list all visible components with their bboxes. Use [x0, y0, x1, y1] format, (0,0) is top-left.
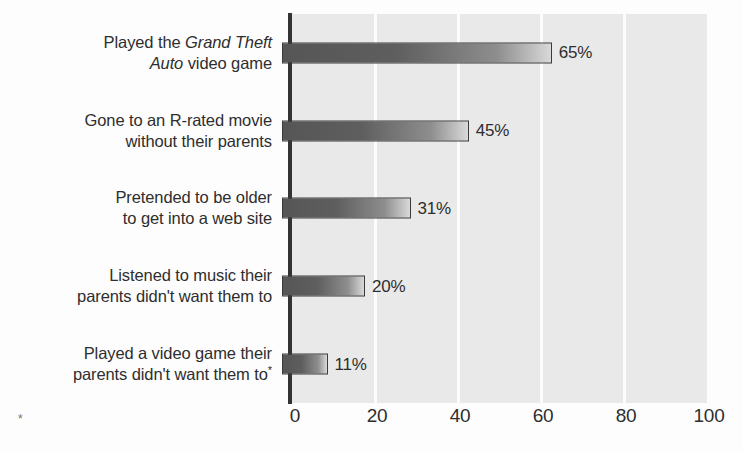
x-tick-0: 0: [290, 405, 300, 427]
chart-rows: Played the Grand Theft Auto video game 6…: [0, 14, 743, 403]
category-label-5-line1: Played a video game their: [84, 344, 272, 362]
category-label-1-line2-emphasis: Auto: [150, 54, 184, 72]
x-tick-20: 20: [367, 405, 388, 427]
bar-group-3: 31%: [282, 198, 451, 219]
bar-5: [282, 354, 328, 375]
category-label-4-line1: Listened to music their: [109, 266, 272, 284]
bar-3: [282, 198, 411, 219]
x-tick-60: 60: [533, 405, 554, 427]
bar-zone-1: 65%: [282, 14, 743, 92]
bar-zone-2: 45%: [282, 92, 743, 170]
bar-zone-3: 31%: [282, 170, 743, 248]
category-label-2-line2: without their parents: [126, 132, 272, 150]
category-label-3-line1: Pretended to be older: [115, 188, 272, 206]
x-tick-100: 100: [694, 405, 725, 427]
category-label-1: Played the Grand Theft Auto video game: [0, 32, 282, 74]
x-tick-80: 80: [616, 405, 637, 427]
category-label-1-line2-post: video game: [183, 54, 272, 72]
category-label-5: Played a video game their parents didn't…: [0, 343, 282, 385]
bar-chart: Played the Grand Theft Auto video game 6…: [0, 0, 743, 451]
bar-1: [282, 42, 552, 63]
bar-value-4: 20%: [372, 276, 405, 296]
bar-value-2: 45%: [476, 121, 509, 141]
category-label-3: Pretended to be older to get into a web …: [0, 187, 282, 229]
chart-row: Played the Grand Theft Auto video game 6…: [0, 14, 743, 92]
category-label-2-line1: Gone to an R-rated movie: [85, 111, 272, 129]
bar-group-1: 65%: [282, 42, 592, 63]
bar-4: [282, 276, 365, 297]
footnote-mark: *: [18, 412, 23, 426]
bar-group-2: 45%: [282, 120, 509, 141]
bar-value-1: 65%: [559, 43, 592, 63]
bar-value-3: 31%: [418, 198, 451, 218]
category-label-1-line1-emphasis: Grand Theft: [185, 33, 272, 51]
x-tick-40: 40: [450, 405, 471, 427]
chart-row: Pretended to be older to get into a web …: [0, 170, 743, 248]
chart-row: Played a video game their parents didn't…: [0, 325, 743, 403]
bar-zone-4: 20%: [282, 247, 743, 325]
category-label-3-line2: to get into a web site: [123, 209, 272, 227]
category-label-4: Listened to music their parents didn't w…: [0, 265, 282, 307]
bar-2: [282, 120, 469, 141]
chart-row: Gone to an R-rated movie without their p…: [0, 92, 743, 170]
bar-group-4: 20%: [282, 276, 405, 297]
x-axis: 0 20 40 60 80 100: [292, 405, 707, 437]
bar-group-5: 11%: [282, 354, 367, 375]
bar-zone-5: 11%: [282, 325, 743, 403]
chart-row: Listened to music their parents didn't w…: [0, 247, 743, 325]
bar-value-5: 11%: [335, 354, 367, 374]
category-label-5-line2: parents didn't want them to: [73, 365, 268, 383]
category-label-2: Gone to an R-rated movie without their p…: [0, 110, 282, 152]
category-label-1-line1-pre: Played the: [104, 33, 185, 51]
category-label-5-footnote-mark: *: [268, 364, 272, 376]
category-label-4-line2: parents didn't want them to: [77, 287, 272, 305]
